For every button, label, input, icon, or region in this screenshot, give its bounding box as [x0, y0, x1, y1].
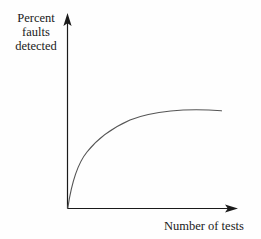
y-axis-label-line-2: faults [8, 25, 64, 39]
fault-detection-curve [68, 110, 222, 208]
y-axis-label-line-3: detected [8, 39, 64, 53]
x-axis-label: Number of tests [164, 219, 244, 233]
y-axis-label-line-1: Percent [8, 11, 64, 25]
figure-container: Percent faults detected Number of tests [0, 0, 261, 239]
y-axis-label: Percent faults detected [8, 11, 64, 53]
